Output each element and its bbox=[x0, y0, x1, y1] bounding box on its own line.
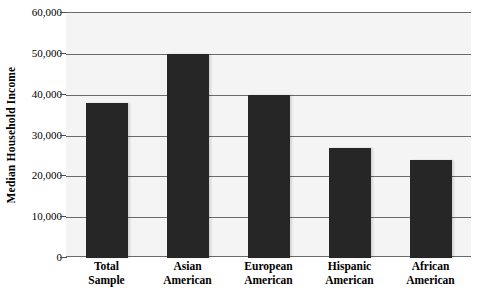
x-label-line-2: American bbox=[147, 273, 228, 287]
x-label-line-2: American bbox=[309, 273, 390, 287]
x-label-line-2: Sample bbox=[66, 273, 147, 287]
bar bbox=[86, 103, 128, 258]
y-axis-tick-label: 30,000 bbox=[18, 129, 62, 141]
x-axis-category-label: HispanicAmerican bbox=[309, 259, 390, 287]
x-axis-category-label: EuropeanAmerican bbox=[228, 259, 309, 287]
y-axis-tick-label: 20,000 bbox=[18, 169, 62, 181]
gridline bbox=[66, 54, 471, 55]
x-label-line-1: African bbox=[390, 259, 471, 273]
x-label-line-2: American bbox=[228, 273, 309, 287]
x-axis-category-labels: TotalSampleAsianAmericanEuropeanAmerican… bbox=[66, 259, 471, 301]
y-axis-tick-label: 50,000 bbox=[18, 47, 62, 59]
x-label-line-1: Total bbox=[66, 259, 147, 273]
x-label-line-2: American bbox=[390, 273, 471, 287]
y-axis-tick-label: 10,000 bbox=[18, 210, 62, 222]
bar-chart-figure: Median Household Income 010,00020,00030,… bbox=[0, 0, 484, 301]
bar bbox=[329, 148, 371, 258]
bar bbox=[167, 54, 209, 258]
y-axis-tick-labels: 010,00020,00030,00040,00050,00060,000 bbox=[18, 0, 62, 301]
x-label-line-1: European bbox=[228, 259, 309, 273]
plot-area bbox=[66, 12, 471, 257]
x-label-line-1: Hispanic bbox=[309, 259, 390, 273]
y-axis-title-text: Median Household Income bbox=[5, 67, 17, 204]
x-axis-category-label: AfricanAmerican bbox=[390, 259, 471, 287]
bar bbox=[410, 160, 452, 258]
y-axis-tick-mark bbox=[60, 257, 67, 258]
x-axis-category-label: AsianAmerican bbox=[147, 259, 228, 287]
x-label-line-1: Asian bbox=[147, 259, 228, 273]
y-axis-tick-label: 60,000 bbox=[18, 6, 62, 18]
y-axis-tick-label: 40,000 bbox=[18, 88, 62, 100]
y-axis-tick-label: 0 bbox=[18, 251, 62, 263]
bar bbox=[248, 95, 290, 258]
x-axis-category-label: TotalSample bbox=[66, 259, 147, 287]
